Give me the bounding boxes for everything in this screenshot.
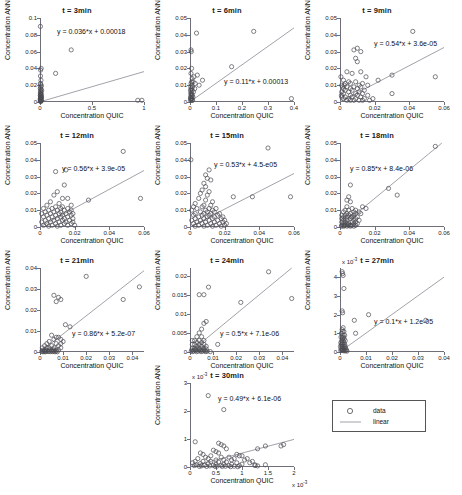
y-tick-label-8-4: 4 [334,274,337,280]
y-axis-label-3: Concentration ANN [4,125,11,185]
regression-equation-1: y = 0.11*x + 0.00013 [224,78,288,85]
regression-equation-9: y = 0.49*x + 6.1e-06 [218,395,281,402]
scatter-panel-0: t = 3minConcentration ANNConcentration Q… [2,6,152,130]
x-axis-label-8: Concentration QUIC [340,362,444,369]
y-axis-exponent-8: x 10-3 [342,257,357,265]
x-tick-label-0-2: 1 [142,105,145,111]
y-tick-label-3-3: 0.03 [25,174,37,180]
y-tick-label-9-0: 0 [184,464,187,470]
x-tick-label-4-0: 0 [188,230,191,236]
plot-area-2: 00.010.020.030.040.0500.020.040.06 [340,18,444,102]
x-axis-label-0: Concentration QUIC [40,112,144,119]
legend: datalinear [332,400,426,432]
y-tick-label-8-3: 3 [334,293,337,299]
regression-equation-2: y = 0.54*x + 3.6e-05 [374,40,437,47]
scatter-panel-2: t = 9minConcentration ANNConcentration Q… [302,6,452,130]
x-tick-label-3-2: 0.04 [103,230,115,236]
x-tick-label-5-3: 0.06 [438,230,450,236]
x-tick-label-8-3: 0.03 [412,355,424,361]
panel-title-1: t = 6min [152,6,302,15]
x-tick-label-1-0: 0 [188,105,191,111]
scatter-panel-4: t = 15minConcentration ANNConcentration … [152,131,302,255]
x-tick-label-8-4: 0.04 [438,355,450,361]
y-tick-label-9-2: 2 [184,408,187,414]
regression-equation-0: y = 0.036*x + 0.00018 [57,28,126,35]
y-tick-label-3-2: 0.02 [25,190,37,196]
x-tick-label-3-3: 0.06 [138,230,150,236]
y-tick-label-7-3: 0.015 [172,292,187,298]
y-axis-label-4: Concentration ANN [154,125,161,185]
scatter-panel-5: t = 18minConcentration ANNConcentration … [302,131,452,255]
y-tick-label-2-4: 0.04 [325,32,337,38]
x-axis-label-6: Concentration QUIC [40,362,144,369]
y-tick-label-0-1: 0.02 [25,82,37,88]
x-tick-label-4-1: 0.02 [219,230,231,236]
scatter-panel-8: t = 27minConcentration ANNConcentration … [302,256,452,380]
y-tick-label-3-5: 0.05 [25,140,37,146]
x-tick-label-2-3: 0.06 [438,105,450,111]
x-tick-label-1-4: 0.4 [290,105,298,111]
y-tick-label-1-0: 0 [184,99,187,105]
y-axis-label-2: Concentration ANN [304,0,311,60]
x-axis-label-1: Concentration QUIC [190,112,294,119]
scatter-panel-3: t = 12minConcentration ANNConcentration … [2,131,152,255]
x-tick-label-6-4: 0.04 [127,355,139,361]
y-tick-label-9-1: 1 [184,436,187,442]
x-tick-label-5-1: 0.02 [369,230,381,236]
y-axis-label-9: Concentration ANN [154,365,161,425]
x-tick-label-7-2: 0.02 [230,355,242,361]
y-tick-label-6-1: 0.01 [25,328,37,334]
x-tick-label-4-3: 0.06 [288,230,300,236]
y-tick-label-6-0: 0 [34,349,37,355]
y-tick-label-7-0: 0 [184,349,187,355]
y-axis-label-5: Concentration ANN [304,125,311,185]
y-tick-label-2-0: 0 [334,99,337,105]
y-tick-label-5-0: 0 [334,224,337,230]
y-tick-label-4-4: 0.04 [175,157,187,163]
scatter-svg-1 [190,18,300,104]
y-tick-label-6-4: 0.04 [25,265,37,271]
y-tick-label-2-5: 0.05 [325,15,337,21]
x-tick-label-2-1: 0.02 [369,105,381,111]
y-tick-label-7-1: 0.005 [172,330,187,336]
plot-area-7: 00.0050.010.0150.0200.010.020.030.04 [190,268,294,352]
plot-area-6: 00.010.020.030.0400.010.020.030.04 [40,268,144,352]
y-tick-label-4-2: 0.02 [175,190,187,196]
panel-title-7: t = 24min [152,256,302,265]
y-tick-label-2-3: 0.03 [325,49,337,55]
scatter-panel-9: t = 30minConcentration ANNConcentration … [152,371,302,495]
y-tick-label-1-2: 0.02 [175,65,187,71]
x-axis-label-9: Concentration QUIC [190,477,294,484]
x-tick-label-7-3: 0.03 [253,355,265,361]
x-tick-label-6-3: 0.03 [103,355,115,361]
y-axis-label-1: Concentration ANN [154,0,161,60]
x-tick-label-4-2: 0.04 [253,230,265,236]
y-tick-label-1-4: 0.04 [175,32,187,38]
panel-title-9: t = 30min [152,371,302,380]
legend-symbols [333,401,425,431]
x-tick-label-8-2: 0.02 [386,355,398,361]
plot-area-3: 00.010.020.030.040.0500.020.040.06 [40,143,144,227]
scatter-svg-6 [40,268,150,354]
y-tick-label-1-3: 0.03 [175,49,187,55]
x-tick-label-7-1: 0.01 [207,355,219,361]
y-tick-label-3-0: 0 [34,224,37,230]
x-tick-label-1-2: 0.2 [238,105,246,111]
scatter-svg-4 [190,143,300,229]
x-tick-label-9-1: 0.5 [212,470,220,476]
x-axis-label-2: Concentration QUIC [340,112,444,119]
y-tick-label-1-1: 0.01 [175,82,187,88]
y-tick-label-2-2: 0.02 [325,65,337,71]
panel-title-6: t = 21min [2,256,152,265]
y-tick-label-5-1: 0.01 [325,207,337,213]
x-tick-label-7-0: 0 [188,355,191,361]
y-tick-label-5-5: 0.05 [325,140,337,146]
regression-equation-7: y = 0.5*x + 7.1e-06 [220,330,279,337]
x-tick-label-8-1: 0.01 [360,355,372,361]
legend-label-data: data [373,407,386,414]
x-tick-label-9-0: 0 [188,470,191,476]
y-tick-label-7-4: 0.02 [175,273,187,279]
regression-equation-4: y = 0.53*x + 4.5-e05 [214,161,277,168]
scatter-panel-6: t = 21minConcentration ANNConcentration … [2,256,152,380]
x-axis-label-7: Concentration QUIC [190,362,294,369]
